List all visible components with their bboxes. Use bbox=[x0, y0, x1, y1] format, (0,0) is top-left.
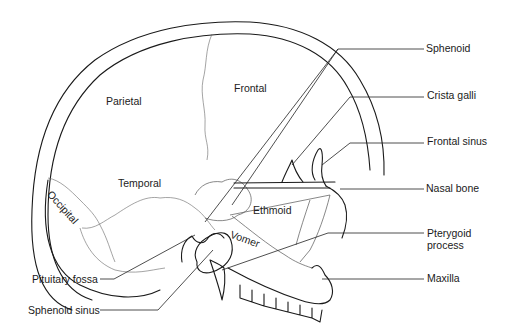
leader-pituitary-fossa bbox=[100, 235, 195, 279]
cribriform-plate bbox=[234, 182, 335, 188]
nasal-profile bbox=[326, 186, 346, 238]
callout-sphenoid-sinus: Sphenoid sinus bbox=[28, 304, 100, 316]
callout-nasal-bone: Nasal bone bbox=[426, 182, 479, 194]
lambdoid-suture bbox=[48, 178, 115, 262]
maxilla-outline bbox=[228, 266, 332, 304]
callout-pterygoid-process: Pterygoid process bbox=[427, 227, 487, 251]
callout-crista-galli: Crista galli bbox=[427, 89, 476, 101]
leader-sphenoid bbox=[205, 49, 424, 222]
label-ethmoid: Ethmoid bbox=[253, 204, 292, 216]
crista-galli-shape bbox=[282, 160, 303, 182]
teeth bbox=[240, 285, 322, 322]
callout-frontal-sinus: Frontal sinus bbox=[427, 135, 487, 147]
callout-pituitary-fossa: Pituitary fossa bbox=[32, 273, 98, 285]
sphenoid-sinus-outline bbox=[195, 233, 232, 273]
temporal-lower bbox=[80, 228, 165, 272]
label-temporal: Temporal bbox=[118, 177, 161, 189]
skull-outer-outline bbox=[32, 22, 384, 310]
sphenoid-region bbox=[195, 179, 251, 221]
temporal-suture bbox=[82, 197, 215, 230]
callout-maxilla: Maxilla bbox=[427, 272, 460, 284]
leader-crista-galli bbox=[292, 97, 424, 165]
frontal-sinus-shape bbox=[312, 149, 326, 186]
nasal-inner bbox=[296, 200, 310, 245]
callout-sphenoid: Sphenoid bbox=[426, 42, 470, 54]
label-frontal: Frontal bbox=[234, 82, 267, 94]
pterygoid-plate bbox=[210, 260, 225, 300]
sella-turcica bbox=[181, 234, 224, 263]
leader-frontal-sinus bbox=[322, 143, 424, 165]
label-parietal: Parietal bbox=[106, 95, 142, 107]
coronal-suture bbox=[202, 34, 212, 160]
